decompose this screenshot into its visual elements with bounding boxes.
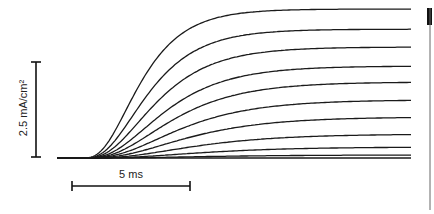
- current-trace: [57, 100, 411, 158]
- current-trace: [57, 118, 411, 158]
- right-edge-border: [427, 8, 432, 210]
- current-traces: [57, 9, 411, 158]
- current-traces-plot: [0, 0, 434, 214]
- vertical-scale-bar: [31, 62, 41, 157]
- x-scale-label: 5 ms: [72, 168, 190, 180]
- horizontal-scale-bar: [72, 181, 190, 191]
- y-scale-label: 2.5 mA/cm²: [17, 63, 29, 153]
